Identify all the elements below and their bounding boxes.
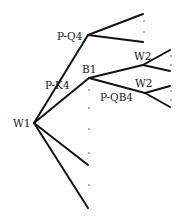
edge-w2-upper-branch-2 [143, 65, 170, 71]
label-node-w2-upper: W2 [134, 50, 151, 62]
edge-pq4-branch-1 [88, 14, 143, 35]
label-node-b1: B1 [82, 63, 96, 75]
edge-pq4-branch-2 [88, 35, 143, 42]
game-tree-diagram: W1 P-K4 P-Q4 B1 W2 W2 P-QB4 [0, 0, 184, 219]
label-move-pq4: P-Q4 [57, 30, 83, 42]
label-move-pqb4: P-QB4 [100, 91, 133, 103]
edge-w1-branch-3 [34, 123, 88, 165]
label-root-w1: W1 [13, 117, 30, 129]
label-node-w2-lower: W2 [135, 77, 152, 89]
edge-w1-branch-4 [34, 123, 88, 208]
edge-w2-lower-branch-2 [145, 93, 170, 107]
label-move-pk4: P-K4 [45, 79, 70, 91]
continuation-dots [88, 20, 172, 186]
